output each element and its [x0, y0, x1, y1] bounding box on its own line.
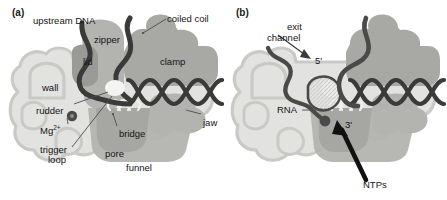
panel-b-caption: (b)	[236, 7, 249, 18]
label-rna: RNA	[277, 105, 297, 116]
rna-three-prime-bead	[320, 116, 331, 127]
rudder-domain-b	[244, 102, 268, 128]
label-trigger-loop-second-line: loop	[48, 155, 66, 166]
panel-a: (a) upstream DNA coiled coil zipper clam…	[0, 0, 224, 200]
panel-a-caption: (a)	[12, 7, 24, 18]
label-clamp: clamp	[160, 57, 185, 68]
panel-a-artwork	[0, 0, 224, 200]
wall-domain-b	[252, 64, 286, 99]
label-coiled-coil: coiled coil	[167, 14, 209, 25]
label-wall: wall	[42, 83, 58, 94]
rna-polymerase-figure: (a) upstream DNA coiled coil zipper clam…	[0, 0, 447, 200]
label-jaw: jaw	[203, 118, 217, 129]
label-magnesium-ion: Mg2+	[40, 126, 61, 137]
label-exit-channel-line-2: channel	[267, 33, 300, 44]
label-upstream-dna: upstream DNA	[33, 16, 95, 27]
panel-b: (b) exit channel 5' RNA 3' NTPs	[224, 0, 447, 200]
label-rudder: rudder	[36, 106, 63, 117]
label-ntps: NTPs	[363, 180, 387, 191]
active-site-cavity	[105, 80, 125, 96]
label-funnel: funnel	[126, 163, 152, 174]
label-five-prime-end: 5'	[315, 56, 322, 67]
trigger-loop-domain-b	[278, 128, 303, 154]
panel-b-artwork	[224, 0, 447, 200]
label-three-prime-end: 3'	[345, 120, 352, 131]
label-lid: lid	[83, 57, 93, 68]
rna-dna-hybrid	[308, 77, 341, 111]
label-exit-channel-line-1: exit	[287, 22, 302, 33]
label-zipper: zipper	[94, 35, 120, 46]
magnesium-ion-dot	[67, 111, 77, 121]
coiled-coil-domain-b	[368, 14, 398, 42]
label-bridge: bridge	[119, 129, 145, 140]
label-pore: pore	[105, 149, 124, 160]
